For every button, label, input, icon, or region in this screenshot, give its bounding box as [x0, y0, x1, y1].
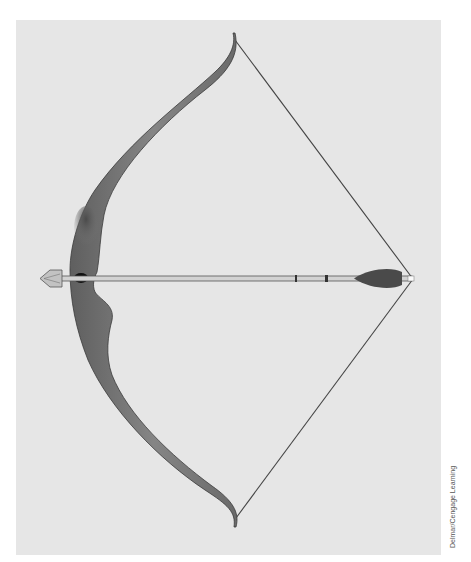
fletching: [354, 269, 402, 288]
bow-illustration: [0, 0, 471, 562]
arrowhead-icon: [40, 270, 62, 287]
grip-shading: [74, 206, 98, 250]
image-credit: Delmar/Cengage Learning: [449, 466, 456, 548]
cresting-band: [295, 275, 297, 282]
arrow-nock: [408, 276, 414, 281]
cresting-band: [325, 275, 328, 282]
